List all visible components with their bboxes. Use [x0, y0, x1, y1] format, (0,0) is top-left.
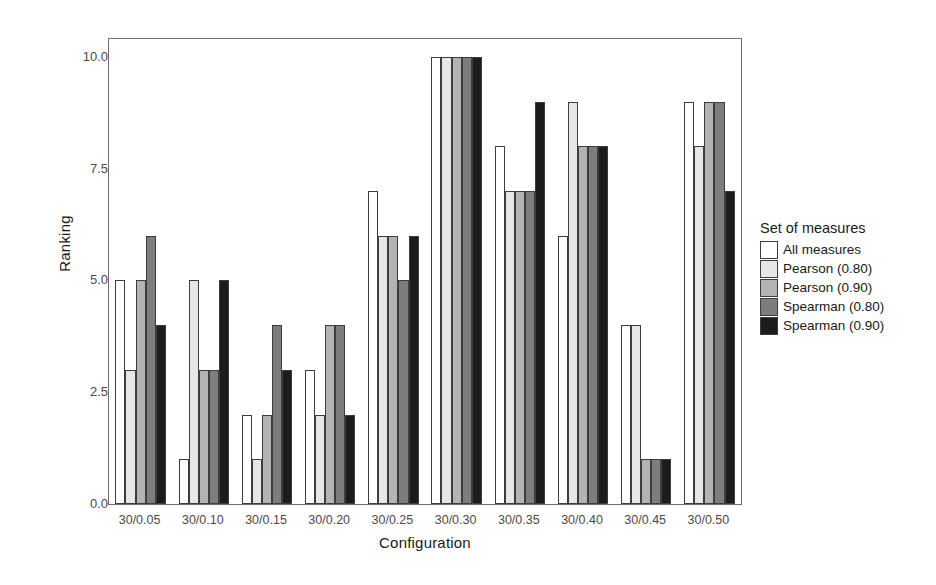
legend-item[interactable]: Spearman (0.80): [760, 297, 930, 316]
x-tick-label: 30/0.25: [372, 513, 414, 527]
legend-item[interactable]: Spearman (0.90): [760, 316, 930, 335]
bar-group: [115, 39, 166, 504]
y-axis: 0.02.55.07.510.0: [52, 0, 108, 585]
bar: [661, 459, 671, 504]
bar: [368, 191, 378, 504]
bar: [725, 191, 735, 504]
bar-group: [242, 39, 293, 504]
bar: [378, 236, 388, 504]
bar: [598, 146, 608, 504]
bar: [388, 236, 398, 504]
x-tick-label: 30/0.35: [498, 513, 540, 527]
bar: [219, 280, 229, 504]
x-tick-label: 30/0.40: [561, 513, 603, 527]
legend-item[interactable]: All measures: [760, 240, 930, 259]
plot-panel: [108, 38, 742, 505]
bar-group: [684, 39, 735, 504]
bar: [568, 102, 578, 504]
bar-group: [368, 39, 419, 504]
bar: [588, 146, 598, 504]
bar: [631, 325, 641, 504]
x-tick-label: 30/0.45: [624, 513, 666, 527]
bar: [641, 459, 651, 504]
legend-title: Set of measures: [760, 220, 930, 236]
legend-item[interactable]: Pearson (0.80): [760, 259, 930, 278]
y-tick-label: 0.0: [64, 496, 108, 511]
x-tick-label: 30/0.50: [688, 513, 730, 527]
legend: Set of measures All measuresPearson (0.8…: [760, 220, 930, 335]
bar: [315, 415, 325, 504]
bar: [252, 459, 262, 504]
bar: [462, 57, 472, 504]
x-tick-label: 30/0.15: [245, 513, 287, 527]
bar: [242, 415, 252, 504]
bar: [282, 370, 292, 504]
bar: [621, 325, 631, 504]
bar: [441, 57, 451, 504]
bar: [525, 191, 535, 504]
bar: [345, 415, 355, 504]
x-tick-label: 30/0.05: [119, 513, 161, 527]
legend-rows: All measuresPearson (0.80)Pearson (0.90)…: [760, 240, 930, 335]
bar: [305, 370, 315, 504]
bar-chart-figure: Ranking 0.02.55.07.510.0 30/0.0530/0.103…: [0, 0, 936, 585]
x-tick-label: 30/0.10: [182, 513, 224, 527]
bar: [431, 57, 441, 504]
bar: [409, 236, 419, 504]
bar: [146, 236, 156, 504]
bar: [515, 191, 525, 504]
bar: [125, 370, 135, 504]
legend-swatch-icon: [760, 260, 778, 278]
bar: [325, 325, 335, 504]
bar: [684, 102, 694, 504]
legend-item[interactable]: Pearson (0.90): [760, 278, 930, 297]
legend-swatch-icon: [760, 241, 778, 259]
bar: [694, 146, 704, 504]
bar: [704, 102, 714, 504]
legend-swatch-icon: [760, 317, 778, 335]
legend-swatch-icon: [760, 298, 778, 316]
x-tick-label: 30/0.20: [308, 513, 350, 527]
legend-item-label: All measures: [783, 242, 861, 257]
bar: [335, 325, 345, 504]
x-axis-title: Configuration: [108, 534, 742, 551]
bar: [262, 415, 272, 504]
bar: [209, 370, 219, 504]
bar: [558, 236, 568, 504]
bar: [535, 102, 545, 504]
legend-swatch-icon: [760, 279, 778, 297]
bars-layer: [109, 39, 741, 504]
bar: [472, 57, 482, 504]
bar: [578, 146, 588, 504]
bar: [136, 280, 146, 504]
y-tick-label: 2.5: [64, 384, 108, 399]
legend-item-label: Spearman (0.90): [783, 318, 884, 333]
bar: [505, 191, 515, 504]
bar: [398, 280, 408, 504]
bar: [179, 459, 189, 504]
bar: [115, 280, 125, 504]
x-tick-label: 30/0.30: [435, 513, 477, 527]
legend-item-label: Pearson (0.80): [783, 261, 872, 276]
bar: [199, 370, 209, 504]
bar-group: [495, 39, 546, 504]
bar-group: [558, 39, 609, 504]
bar: [189, 280, 199, 504]
legend-item-label: Spearman (0.80): [783, 299, 884, 314]
bar: [156, 325, 166, 504]
bar: [651, 459, 661, 504]
y-tick-label: 7.5: [64, 160, 108, 175]
bar-group: [305, 39, 356, 504]
bar: [272, 325, 282, 504]
bar-group: [621, 39, 672, 504]
y-tick-label: 5.0: [64, 272, 108, 287]
bar-group: [179, 39, 230, 504]
y-tick-label: 10.0: [64, 48, 108, 63]
bar: [495, 146, 505, 504]
bar: [452, 57, 462, 504]
bar: [714, 102, 724, 504]
legend-item-label: Pearson (0.90): [783, 280, 872, 295]
bar-group: [431, 39, 482, 504]
